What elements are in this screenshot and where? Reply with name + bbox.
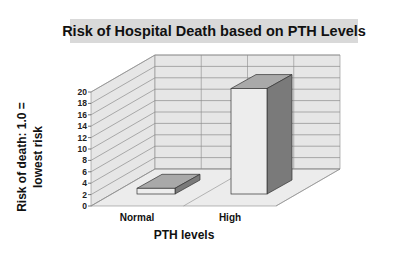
y-tick-label: 18 bbox=[78, 98, 88, 108]
x-category-label: High bbox=[219, 212, 241, 223]
x-axis-label: PTH levels bbox=[154, 228, 215, 242]
y-tick-label: 10 bbox=[78, 144, 88, 154]
y-tick-label: 16 bbox=[78, 110, 88, 120]
y-tick-label: 8 bbox=[82, 155, 87, 165]
chart-plot: 02468101214161820NormalHighPTH levels bbox=[0, 0, 401, 253]
y-tick-label: 12 bbox=[78, 133, 88, 143]
y-tick-label: 20 bbox=[78, 87, 88, 97]
y-tick-label: 4 bbox=[82, 178, 87, 188]
y-tick-label: 14 bbox=[78, 121, 88, 131]
x-category-label: Normal bbox=[120, 212, 155, 223]
y-tick-label: 2 bbox=[82, 190, 87, 200]
bar-high bbox=[231, 75, 292, 194]
y-tick-label: 0 bbox=[82, 201, 87, 211]
y-tick-label: 6 bbox=[82, 167, 87, 177]
